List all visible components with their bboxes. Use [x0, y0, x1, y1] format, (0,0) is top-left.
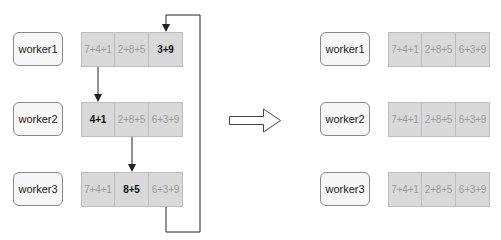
cell: 6+3+9 — [456, 32, 490, 67]
worker3-cells-after: 7+4+1 2+8+5 6+3+9 — [388, 172, 490, 207]
worker1-cells-after: 7+4+1 2+8+5 6+3+9 — [388, 32, 490, 67]
arrow-down-icon — [128, 137, 136, 172]
arrow-down-icon — [94, 67, 102, 102]
worker1-node-after: worker1 — [320, 32, 370, 66]
worker-label: worker1 — [325, 43, 364, 55]
loop-arrow-icon — [162, 15, 200, 232]
cell: 2+8+5 — [422, 102, 456, 137]
worker-label: worker2 — [325, 113, 364, 125]
cell: 6+3+9 — [456, 172, 490, 207]
cell: 2+8+5 — [422, 172, 456, 207]
cell: 7+4+1 — [388, 172, 422, 207]
block-arrow-right-icon — [230, 109, 281, 132]
worker2-node-after: worker2 — [320, 102, 370, 136]
cell: 7+4+1 — [388, 32, 422, 67]
cell: 6+3+9 — [456, 102, 490, 137]
worker2-cells-after: 7+4+1 2+8+5 6+3+9 — [388, 102, 490, 137]
cell: 2+8+5 — [422, 32, 456, 67]
cell: 7+4+1 — [388, 102, 422, 137]
worker3-node-after: worker3 — [320, 172, 370, 206]
worker-label: worker3 — [325, 183, 364, 195]
